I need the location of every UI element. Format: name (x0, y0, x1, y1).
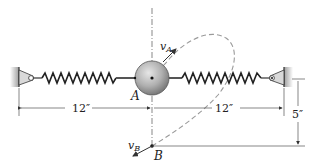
velocity-a-label: vA (160, 40, 172, 54)
spring-mass-diagram: vA A vB B 12″ 12″ 5″ (0, 0, 322, 165)
right-wall-anchor (270, 67, 293, 87)
point-a-label: A (130, 89, 140, 103)
point-b-label: B (153, 149, 163, 163)
vertical-dimension: 5″ (292, 79, 305, 144)
left-wall-anchor (10, 67, 33, 87)
svg-text:12″: 12″ (215, 102, 233, 115)
left-spring (33, 73, 134, 83)
svg-text:12″: 12″ (72, 102, 90, 115)
svg-text:5″: 5″ (292, 108, 303, 121)
right-spring (169, 73, 270, 83)
right-dimension: 12″ (154, 88, 284, 116)
velocity-b-label: vB (128, 139, 140, 153)
